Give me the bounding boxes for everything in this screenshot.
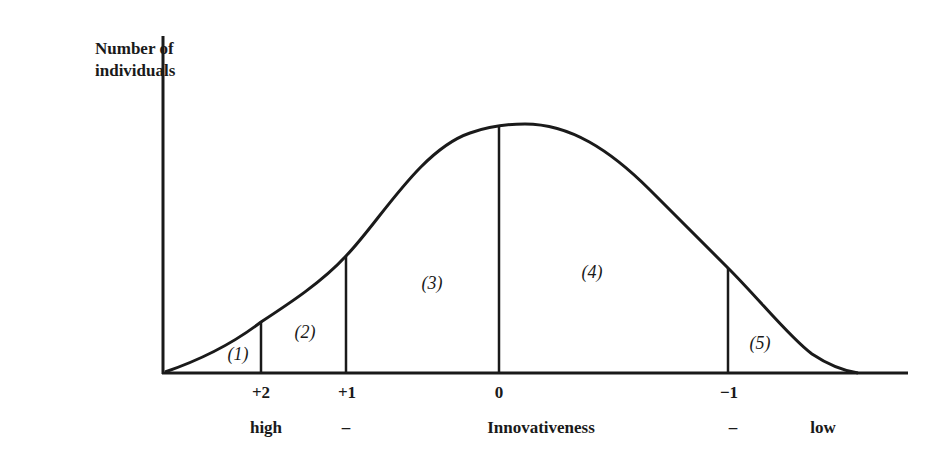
y-axis-label: Number of individuals (95, 38, 175, 82)
region-label-3: (3) (422, 273, 443, 294)
scale-label-high: high (250, 418, 282, 438)
region-label-1: (1) (228, 344, 249, 365)
x-axis-title: Innovativeness (487, 418, 595, 438)
x-tick-zero: 0 (495, 383, 504, 403)
y-axis-label-line2: individuals (95, 60, 175, 82)
x-tick-minus1: −1 (720, 383, 738, 403)
scale-label-low: low (810, 418, 836, 438)
x-tick-plus1: +1 (338, 383, 356, 403)
x-tick-plus2: +2 (252, 383, 270, 403)
region-label-5: (5) (750, 333, 771, 354)
scale-dash-right: – (729, 418, 738, 438)
region-label-4: (4) (582, 262, 603, 283)
scale-dash-left: – (342, 418, 351, 438)
y-axis-label-line1: Number of (95, 38, 175, 60)
region-label-2: (2) (295, 322, 316, 343)
